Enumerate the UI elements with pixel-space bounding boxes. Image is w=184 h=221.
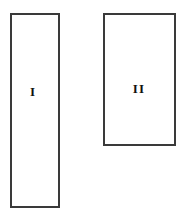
rectangle-two-label: II [119,78,159,98]
rectangle-one [10,13,60,208]
figure-canvas: I II [0,0,184,221]
rectangle-one-label: I [13,81,53,101]
